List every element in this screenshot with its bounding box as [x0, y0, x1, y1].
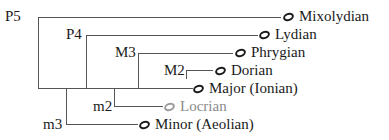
interval-label-M2: M2	[164, 63, 185, 78]
mode-locrian: Locrian	[164, 99, 227, 114]
mode-dorian: Dorian	[215, 63, 273, 78]
mode-name: Mixolydian	[299, 9, 369, 24]
whole-note-icon	[192, 83, 205, 94]
interval-label-m3: m3	[43, 117, 62, 132]
mode-mixolydian: Mixolydian	[283, 9, 369, 24]
m2-minor-branch-line	[114, 88, 163, 106]
mode-name: Dorian	[231, 63, 273, 78]
whole-note-icon	[258, 29, 271, 40]
m2-branch-line	[186, 70, 213, 79]
interval-label-p4: P4	[66, 27, 82, 42]
whole-note-icon	[282, 11, 295, 22]
interval-label-M3: M3	[115, 45, 136, 60]
mode-name: Lydian	[275, 27, 317, 42]
mode-name: Minor (Aeolian)	[155, 117, 254, 132]
mode-name: Major (Ionian)	[209, 81, 298, 96]
whole-note-icon	[138, 119, 151, 130]
mode-name: Locrian	[180, 99, 227, 114]
mode-lydian: Lydian	[259, 27, 317, 42]
mode-name: Phrygian	[251, 45, 305, 60]
mode-minor-aeolian: Minor (Aeolian)	[139, 117, 254, 132]
whole-note-icon	[214, 65, 227, 76]
mode-major-ionian: Major (Ionian)	[193, 81, 298, 96]
mode-phrygian: Phrygian	[235, 45, 305, 60]
whole-note-icon	[163, 101, 176, 112]
interval-label-m2: m2	[93, 99, 112, 114]
whole-note-icon	[234, 47, 247, 58]
interval-label-p5: P5	[5, 9, 21, 24]
